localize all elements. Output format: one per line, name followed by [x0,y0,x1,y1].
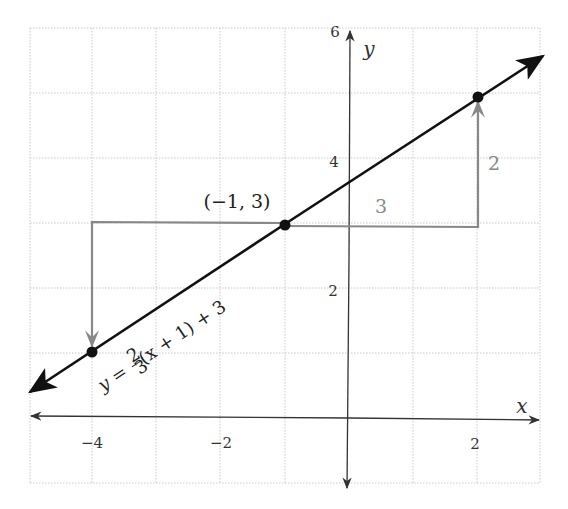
point-neg1-3 [280,220,291,231]
y-axis-label: y [362,37,375,61]
y-axis-down [347,260,349,488]
line-lower-extension [30,224,285,392]
y-tick-2: 2 [328,282,338,300]
point-neg4-1 [87,347,98,358]
coordinate-plane: −4 −2 2 2 4 6 x y 3 2 (−1, 3) y = 2 3 (x… [0,0,568,509]
x-axis-left [31,416,349,418]
line-y-equals-two-thirds-x-plus-1-plus-3 [285,56,543,224]
y-tick-6: 6 [330,23,340,41]
x-tick-2: 2 [470,435,480,453]
x-tick-neg2: −2 [210,434,232,452]
y-tick-4: 4 [329,153,339,171]
run-label: 3 [375,195,387,217]
rise-label: 2 [488,152,500,174]
x-axis-label: x [516,394,527,418]
point-2-5 [473,92,484,103]
point-label-neg1-3: (−1, 3) [203,190,270,212]
eq-rest: (x + 1) + 3 [134,295,229,368]
x-axis [349,418,539,420]
x-tick-neg4: −4 [81,434,103,452]
eq-y-equals: y = [93,361,131,396]
grid [30,28,540,483]
